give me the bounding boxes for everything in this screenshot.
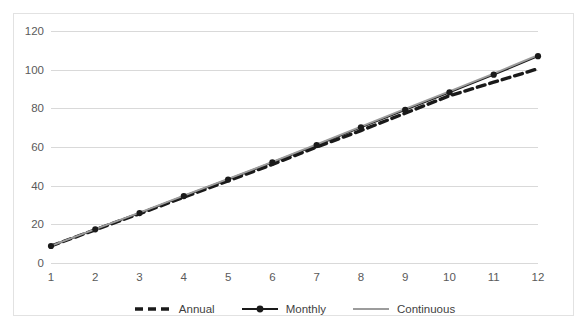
legend-item-monthly[interactable]: Monthly — [241, 303, 326, 315]
data-point-marker — [181, 193, 187, 199]
legend-swatch-continuous-icon — [352, 303, 390, 315]
legend-swatch-monthly-icon — [241, 303, 279, 315]
series-line-continuous — [51, 55, 538, 246]
legend-label: Continuous — [397, 303, 455, 315]
data-point-marker — [225, 176, 231, 182]
data-point-marker — [402, 107, 408, 113]
chart-legend: AnnualMonthlyContinuous — [14, 303, 575, 315]
data-point-marker — [269, 159, 275, 165]
data-point-marker — [358, 124, 364, 130]
data-point-marker — [136, 210, 142, 216]
data-point-marker — [92, 226, 98, 232]
data-point-marker — [491, 72, 497, 78]
legend-item-continuous[interactable]: Continuous — [352, 303, 455, 315]
legend-label: Monthly — [286, 303, 326, 315]
data-point-marker — [446, 89, 452, 95]
legend-label: Annual — [179, 303, 215, 315]
chart-container: 020406080100120 123456789101112 AnnualMo… — [0, 0, 588, 331]
chart-plot-frame: 020406080100120 123456789101112 AnnualMo… — [13, 13, 574, 316]
legend-item-annual[interactable]: Annual — [134, 303, 215, 315]
chart-series-layer — [14, 14, 575, 317]
data-point-marker — [314, 142, 320, 148]
legend-swatch-annual-icon — [134, 303, 172, 315]
data-point-marker — [48, 243, 54, 249]
data-point-marker — [535, 53, 541, 59]
